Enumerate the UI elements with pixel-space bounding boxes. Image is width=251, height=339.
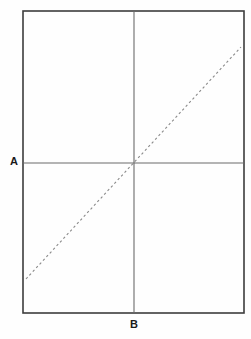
axis-label-a: A	[10, 156, 18, 167]
geometry-diagram	[0, 0, 251, 339]
figure-canvas: A B	[0, 0, 251, 339]
axis-label-b: B	[130, 319, 138, 330]
